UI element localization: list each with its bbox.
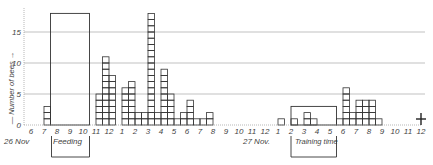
bar-cell [161, 94, 168, 100]
x-tick-label: 7 [198, 127, 203, 136]
bar-cell [103, 82, 110, 88]
bar-cell [369, 113, 376, 119]
bar-cell [129, 88, 136, 94]
x-tick-label: 5 [328, 127, 333, 136]
period-box [51, 13, 90, 125]
bar-cell [194, 119, 201, 125]
bar-cell [337, 119, 344, 125]
bar-cell [187, 113, 194, 119]
bar-cell [135, 119, 142, 125]
bar-cell [343, 113, 350, 119]
bar-cell [161, 75, 168, 81]
bar-cell [44, 113, 51, 119]
bar-cell [148, 82, 155, 88]
bar-cell [103, 119, 110, 125]
x-tick-label: 2 [288, 127, 294, 136]
bar-cell [148, 69, 155, 75]
x-tick-label: 10 [391, 127, 400, 136]
bar-cell [103, 69, 110, 75]
bar-cell [109, 100, 116, 106]
bar-cell [148, 20, 155, 26]
bar-cell [356, 113, 363, 119]
bar-cell [129, 82, 136, 88]
bar-cell [148, 51, 155, 57]
bar-cell [129, 106, 136, 112]
bar-cell [122, 100, 129, 106]
bar-cell [148, 38, 155, 44]
bar-cell [168, 113, 175, 119]
bar-cell [148, 100, 155, 106]
bar-cell [142, 119, 149, 125]
x-tick-label: 2 [132, 127, 138, 136]
bar-cell [109, 82, 116, 88]
x-tick-label: 3 [302, 127, 307, 136]
x-tick-label: 5 [172, 127, 177, 136]
bar-cell [363, 106, 370, 112]
x-tick-label: 6 [185, 127, 190, 136]
x-tick-label: 11 [92, 127, 100, 136]
feeding-label: Feeding [53, 137, 82, 146]
bar-cell [103, 100, 110, 106]
bar-cell [103, 106, 110, 112]
bar-cell [278, 119, 285, 125]
bar-cell [155, 113, 162, 119]
bar-cell [304, 113, 311, 119]
bar-cell [168, 100, 175, 106]
x-tick-label: 12 [105, 127, 114, 136]
bar-cell [44, 119, 51, 125]
bar-cell [122, 94, 129, 100]
bar-cell [155, 119, 162, 125]
bar-cell [103, 63, 110, 69]
bar-cell [148, 113, 155, 119]
x-tick-label: 4 [315, 127, 320, 136]
bar-cell [311, 119, 318, 125]
bar-cell [343, 106, 350, 112]
date-label-27-nov: 27 Nov. [242, 137, 270, 146]
bar-cell [187, 119, 194, 125]
chart-canvas: 6789101112123456789101112123456789101112… [0, 0, 433, 165]
bar-cell [96, 119, 103, 125]
bar-cell [304, 119, 311, 125]
bar-cell [148, 63, 155, 69]
period-brackets [52, 136, 337, 157]
x-tick-label: 12 [417, 127, 426, 136]
bar-cell [103, 75, 110, 81]
bar-cell [135, 113, 142, 119]
x-tick-label: 6 [341, 127, 346, 136]
training-label: Training time [295, 137, 338, 146]
bar-cell [207, 119, 214, 125]
x-tick-label: 6 [29, 127, 34, 136]
x-tick-label: 7 [354, 127, 359, 136]
x-tick-label: 4 [159, 127, 164, 136]
bar-cell [148, 57, 155, 63]
x-tick-label: 9 [224, 127, 229, 136]
bar-cell [161, 119, 168, 125]
bar-cell [356, 119, 363, 125]
bar-cell [148, 119, 155, 125]
x-tick-label: 1 [120, 127, 124, 136]
bar-cell [161, 82, 168, 88]
bar-cell [103, 88, 110, 94]
x-tick-label: 11 [404, 127, 412, 136]
bar-cell [148, 26, 155, 32]
gridlines [24, 32, 425, 94]
bar-cell [122, 106, 129, 112]
bar-cell [122, 88, 129, 94]
bar-cell [187, 100, 194, 106]
bar-cell [148, 32, 155, 38]
x-tick-labels: 6789101112123456789101112123456789101112 [29, 127, 426, 136]
bar-cell [96, 113, 103, 119]
x-tick-label: 8 [367, 127, 372, 136]
bar-cell [181, 113, 188, 119]
x-tick-label: 10 [235, 127, 244, 136]
bar-cell [148, 88, 155, 94]
bar-cell [181, 119, 188, 125]
bar-cell [129, 113, 136, 119]
bar-cell [129, 100, 136, 106]
bar-cell [109, 119, 116, 125]
bar-cell [343, 100, 350, 106]
cross-marker-icon [416, 113, 426, 125]
bar-cell [350, 119, 357, 125]
x-tick-label: 3 [146, 127, 151, 136]
bar-cell [148, 94, 155, 100]
